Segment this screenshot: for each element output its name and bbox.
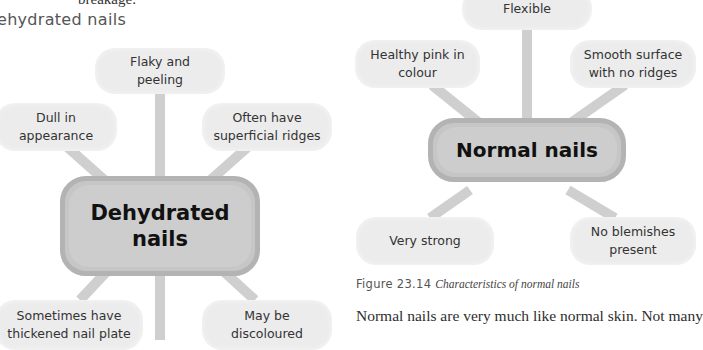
center-label-line2: nails [132, 227, 188, 251]
node-flexible: Flexible [462, 0, 592, 30]
body-paragraph: Normal nails are very much like normal s… [356, 307, 703, 325]
figure-caption: Figure 23.14Characteristics of normal na… [356, 277, 579, 291]
center-node-normal: Normal nails [428, 118, 626, 182]
node-no-blemishes: No blemishespresent [570, 217, 696, 265]
node-healthy-pink: Healthy pink incolour [355, 40, 480, 88]
figure-title: Characteristics of normal nails [435, 278, 579, 290]
node-very-strong: Very strong [356, 217, 494, 265]
node-flaky-peeling: Flaky andpeeling [95, 48, 225, 94]
node-thickened-nail-plate: Sometimes havethickened nail plate [0, 300, 143, 350]
node-smooth-surface: Smooth surfacewith no ridges [570, 40, 696, 88]
center-node-dehydrated: Dehydratednails [60, 176, 260, 276]
center-label-line1: Dehydrated [90, 201, 229, 225]
figure-number: Figure 23.14 [356, 277, 431, 291]
node-discoloured: May bediscoloured [202, 300, 332, 350]
node-superficial-ridges: Often havesuperficial ridges [202, 103, 332, 151]
center-label: Normal nails [456, 137, 598, 163]
node-dull-appearance: Dull inappearance [0, 103, 117, 151]
